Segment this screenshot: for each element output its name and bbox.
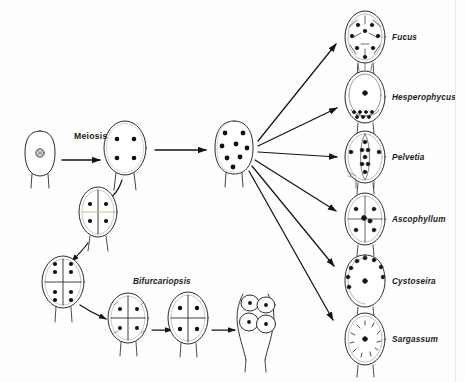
stage-eggs-released <box>237 294 275 372</box>
genus-cell-cystoseira <box>345 255 385 318</box>
arrow-to-pelvetia <box>258 152 337 157</box>
page-edge-line <box>455 0 456 382</box>
stage-oogonium-4-nuclei <box>104 121 146 190</box>
arrow-to-lower-chain <box>80 305 106 319</box>
genus-cell-hesperophycus <box>345 63 385 134</box>
stage-lower-chain-a <box>108 293 148 356</box>
stage-lower-chain-b <box>168 292 208 357</box>
stage-oogonium-1-nucleus <box>25 131 55 188</box>
stage-hub-8-nuclei <box>215 121 253 187</box>
arrow-to-fucus <box>258 44 336 141</box>
diagram-canvas: Meiosis Bifurcariopsis Fucus Hesperophyc… <box>0 0 465 382</box>
radiating-arrows <box>249 44 337 320</box>
stage-oogonium-4-septate <box>79 187 117 251</box>
label-bifurcariopsis: Bifurcariopsis <box>133 277 191 286</box>
label-meiosis: Meiosis <box>74 131 108 141</box>
arrow-to-8-nuclei <box>72 243 88 261</box>
genus-cell-ascophyllum <box>345 193 385 256</box>
stage-oogonium-8-nuclei <box>42 256 84 322</box>
label-genus-pelvetia: Pelvetia <box>392 153 425 162</box>
arrow-to-cystoseira <box>252 166 334 266</box>
life-cycle-drawing <box>0 0 465 382</box>
label-genus-hesperophycus: Hesperophycus <box>392 93 456 102</box>
genus-cell-pelvetia <box>345 131 385 194</box>
label-genus-sargassum: Sargassum <box>392 335 438 344</box>
label-genus-ascophyllum: Ascophyllum <box>392 215 446 224</box>
label-genus-cystoseira: Cystoseira <box>392 277 436 286</box>
label-genus-fucus: Fucus <box>392 33 417 42</box>
genus-cell-sargassum <box>345 313 385 377</box>
